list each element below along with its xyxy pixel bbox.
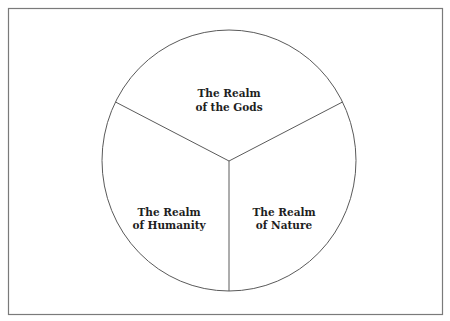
section-humanity-label-line2: of Humanity: [132, 219, 206, 231]
three-realms-diagram: The Realm of the Gods The Realm of Human…: [0, 0, 450, 321]
section-nature: The Realm of Nature: [252, 206, 315, 232]
section-humanity-label-line1: The Realm: [137, 206, 200, 218]
section-nature-label-line2: of Nature: [256, 219, 313, 231]
section-gods-label-line2: of the Gods: [195, 101, 262, 113]
section-nature-label-line1: The Realm: [252, 206, 315, 218]
section-gods: The Realm of the Gods: [195, 87, 262, 113]
section-gods-label-line1: The Realm: [197, 87, 260, 99]
section-humanity: The Realm of Humanity: [132, 206, 206, 232]
